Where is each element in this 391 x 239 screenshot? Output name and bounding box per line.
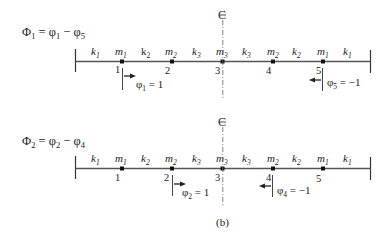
svg-text:2: 2 <box>165 65 170 76</box>
svg-text:5: 5 <box>316 65 321 76</box>
svg-text:m3: m3 <box>216 152 228 167</box>
spring-label: k2 <box>141 152 150 167</box>
svg-text:1: 1 <box>115 172 120 183</box>
figure-canvas: Φ1 = φ1 − φ5 k1 k2 k3 k3 k2 k1 m1 1 m2 2… <box>0 0 391 239</box>
mass-node: m1 1 <box>115 152 127 183</box>
svg-text:4: 4 <box>266 65 272 76</box>
svg-text:m3: m3 <box>216 45 228 60</box>
svg-text:m2: m2 <box>267 45 279 60</box>
svg-text:φ1 = 1: φ1 = 1 <box>136 78 163 93</box>
svg-text:m1: m1 <box>115 152 127 167</box>
svg-text:φ4 = −1: φ4 = −1 <box>277 184 311 199</box>
svg-text:1: 1 <box>115 64 120 75</box>
svg-text:5: 5 <box>316 173 321 184</box>
svg-text:2: 2 <box>164 172 169 183</box>
equation-mode-2: Φ2 = φ2 − φ4 <box>22 134 86 150</box>
spring-label: k2 <box>292 45 301 60</box>
diagram-mode-1: Φ1 = φ1 − φ5 k1 k2 k3 k3 k2 k1 m1 1 m2 2… <box>22 8 371 98</box>
svg-text:3: 3 <box>215 65 220 76</box>
mass-node: m2 2 <box>164 152 177 183</box>
svg-text:m1: m1 <box>115 45 127 60</box>
svg-text:4: 4 <box>266 172 272 183</box>
spring-label: k3 <box>192 152 201 167</box>
svg-text:φ2 = 1: φ2 = 1 <box>182 186 209 201</box>
spring-label: k1 <box>91 45 100 60</box>
mass-node: m2 2 <box>165 45 177 76</box>
spring-label: k2 <box>141 45 151 60</box>
svg-text:m1: m1 <box>317 45 329 60</box>
mass-node: m3 3 <box>215 45 228 76</box>
svg-text:m1: m1 <box>317 152 329 167</box>
figure-caption: (b) <box>216 216 229 229</box>
svg-text:m2: m2 <box>165 152 177 167</box>
displacement-marker: φ1 = 1 <box>123 68 164 93</box>
spring-label: k1 <box>343 152 352 167</box>
spring-label: k3 <box>242 45 251 60</box>
mass-node: m1 1 <box>115 45 127 75</box>
svg-text:3: 3 <box>215 172 220 183</box>
spring-label: k3 <box>242 152 251 167</box>
spring-label: k3 <box>192 45 201 60</box>
displacement-marker: φ2 = 1 <box>173 175 210 201</box>
spring-label: k2 <box>292 152 301 167</box>
equation-mode-1: Φ1 = φ1 − φ5 <box>22 25 85 41</box>
spring-label: k1 <box>91 152 100 167</box>
spring-label: k1 <box>343 45 352 60</box>
svg-text:φ5 = −1: φ5 = −1 <box>327 76 361 91</box>
mass-node: m2 4 <box>266 45 279 76</box>
svg-text:m2: m2 <box>165 45 177 60</box>
mass-node: m3 3 <box>215 152 228 183</box>
diagram-mode-2: Φ2 = φ2 − φ4 k1 k2 k3 k3 k2 k1 m1 1 m2 2… <box>22 115 371 207</box>
svg-text:m2: m2 <box>267 152 279 167</box>
